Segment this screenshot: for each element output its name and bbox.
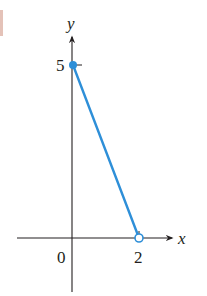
graph-segment: [73, 65, 139, 238]
y-tick-label-5: 5: [56, 56, 65, 75]
open-endpoint-marker: [135, 234, 143, 242]
function-graph: y x 5 0 2: [0, 0, 207, 296]
x-tick-label-2: 2: [134, 248, 143, 267]
x-axis-label: x: [177, 229, 186, 248]
y-axis-label: y: [65, 14, 75, 33]
chart-svg: y x 5 0 2: [0, 0, 207, 296]
page-edge-mark: [0, 10, 3, 36]
filled-endpoint-marker: [69, 61, 77, 69]
origin-label: 0: [57, 248, 66, 267]
